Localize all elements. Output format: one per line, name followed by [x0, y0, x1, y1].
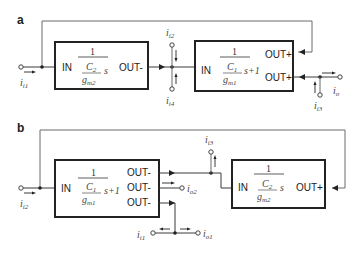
panel-b-block-2-tf-tail: s	[280, 182, 284, 193]
panel-b-terminal-ii3[interactable]	[209, 150, 213, 154]
diagram-canvas: a ii1 IN 1 C2 gm2 s OUT- ii2 ii4 IN 1 C1…	[0, 0, 361, 255]
panel-b-block-1-out-2: OUT-	[127, 182, 151, 193]
panel-a-block-1-in: IN	[62, 62, 72, 73]
panel-a-block-2-out-2: OUT+	[265, 72, 292, 83]
current-label-ii1: ii1	[20, 77, 28, 90]
current-label-io2: io2	[187, 183, 197, 196]
current-arrowhead-ii4	[175, 73, 178, 77]
current-label-ii2: ii2	[166, 27, 175, 40]
panel-b-terminal-ii1[interactable]	[151, 231, 155, 235]
panel-b-out1-arrow	[169, 170, 175, 176]
panel-a-block-1-tf-num: 1	[90, 46, 95, 57]
current-arrowhead-ii1-b	[159, 228, 163, 231]
current-arrowhead-ii2	[175, 58, 178, 62]
current-arrowhead-io1	[187, 228, 191, 231]
panel-a-out2-arrow	[299, 74, 305, 80]
panel-a-terminal-io[interactable]	[338, 75, 342, 79]
panel-a-out1-arrow	[159, 64, 165, 70]
panel-a-node	[40, 65, 44, 69]
current-label-io: io	[333, 85, 340, 98]
panel-a-block-2-tf-num: 1	[232, 46, 237, 57]
panel-a-block-2-tf-tail: s+1	[244, 65, 260, 76]
current-arrowhead-io2	[171, 182, 175, 185]
panel-a-label: a	[17, 13, 24, 27]
panel-b-block-1-out-3: OUT-	[127, 197, 151, 208]
current-label-b-ii3: ii3	[205, 134, 214, 147]
panel-b-block-1-tf-tail: s+1	[104, 185, 120, 196]
panel-a-feedback-arrow	[299, 49, 305, 55]
panel-b-terminal-io1[interactable]	[196, 231, 200, 235]
panel-a-terminal-ii3[interactable]	[318, 93, 322, 97]
panel-b-out3-arrow	[169, 200, 175, 206]
panel-a-block-2-out-1: OUT+	[265, 49, 292, 60]
panel-a-block-2-in: IN	[201, 65, 211, 76]
panel-b-feedback-arrow	[332, 185, 338, 191]
panel-b-input-node	[38, 186, 42, 190]
panel-b-label: b	[17, 121, 24, 135]
panel-a-terminal-ii4[interactable]	[170, 87, 174, 91]
panel-a-block-1-tf-tail: s	[104, 65, 108, 76]
current-arrowhead-io	[332, 72, 336, 75]
current-label-io1: io1	[203, 228, 213, 241]
current-arrowhead-ii3	[314, 81, 317, 85]
current-label-b-ii2: ii2	[20, 198, 29, 211]
panel-a-block-1-out: OUT-	[119, 62, 143, 73]
panel-b-terminal-ii2[interactable]	[19, 186, 23, 190]
panel-b-terminal-io2[interactable]	[180, 186, 184, 190]
current-arrowhead-ii1	[32, 71, 36, 74]
panel-a-terminal-ii2[interactable]	[170, 43, 174, 47]
current-arrowhead-ii3-b	[214, 155, 217, 159]
panel-b-block-2-out: OUT+	[296, 182, 323, 193]
panel-b-block-2-in: IN	[238, 182, 248, 193]
panel-b-block-2-tf-num: 1	[266, 163, 271, 174]
current-label-ii3: ii3	[314, 100, 323, 113]
current-label-ii4: ii4	[166, 95, 175, 108]
panel-a-terminal-ii1[interactable]	[19, 65, 23, 69]
current-arrowhead-b-ii2	[32, 192, 36, 195]
panel-b-block-1-out-1: OUT-	[127, 167, 151, 178]
panel-b-block-1-tf-num: 1	[91, 167, 96, 178]
panel-b-bottom-node	[173, 231, 177, 235]
current-label-b-ii1: ii1	[137, 229, 145, 242]
panel-b-block-1-in: IN	[61, 183, 71, 194]
